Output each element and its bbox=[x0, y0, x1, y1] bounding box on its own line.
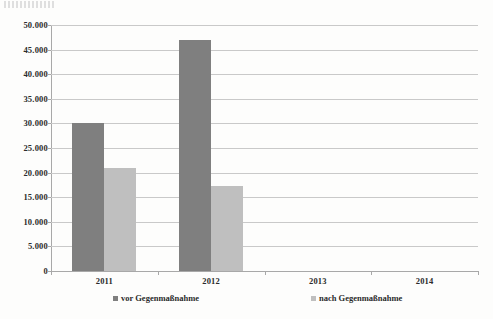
y-axis-tick-mark bbox=[47, 197, 51, 198]
y-axis-tick-label: 0 bbox=[4, 267, 48, 276]
gridline bbox=[51, 123, 478, 124]
bar-2012-series-0 bbox=[179, 40, 211, 271]
y-axis-tick-mark bbox=[47, 222, 51, 223]
y-axis-tick-mark bbox=[47, 74, 51, 75]
x-axis-label-2012: 2012 bbox=[181, 277, 241, 286]
x-axis-tick-mark bbox=[51, 271, 52, 275]
y-axis-tick-label: 40.000 bbox=[4, 70, 48, 79]
bar-chart: 05.00010.00015.00020.00025.00030.00035.0… bbox=[0, 0, 493, 319]
x-axis-label-2013: 2013 bbox=[288, 277, 348, 286]
y-axis-tick-label: 25.000 bbox=[4, 144, 48, 153]
x-axis-label-2014: 2014 bbox=[395, 277, 455, 286]
y-axis-tick-label: 50.000 bbox=[4, 21, 48, 30]
y-axis-tick-mark bbox=[47, 123, 51, 124]
legend-swatch-icon bbox=[311, 296, 316, 301]
y-axis-tick-mark bbox=[47, 99, 51, 100]
bar-2011-series-0 bbox=[72, 123, 104, 271]
y-axis-tick-label: 10.000 bbox=[4, 218, 48, 227]
gridline bbox=[51, 99, 478, 100]
chart-legend: vor Gegenmaßnahmenach Gegenmaßnahme bbox=[0, 294, 493, 310]
x-axis-tick-mark bbox=[371, 271, 372, 275]
plot-area bbox=[51, 25, 478, 271]
y-axis-tick-mark bbox=[47, 173, 51, 174]
x-axis-tick-mark bbox=[265, 271, 266, 275]
y-axis-tick-mark bbox=[47, 25, 51, 26]
legend-swatch-icon bbox=[113, 296, 118, 301]
y-axis-tick-label: 30.000 bbox=[4, 119, 48, 128]
x-axis-tick-mark bbox=[478, 271, 479, 275]
legend-label: nach Gegenmaßnahme bbox=[319, 294, 402, 303]
y-axis-labels: 05.00010.00015.00020.00025.00030.00035.0… bbox=[0, 25, 48, 271]
bar-2012-series-1 bbox=[211, 186, 243, 271]
gridline bbox=[51, 50, 478, 51]
y-axis-tick-mark bbox=[47, 246, 51, 247]
bar-2011-series-1 bbox=[104, 168, 136, 271]
legend-entry-0: vor Gegenmaßnahme bbox=[113, 294, 199, 303]
y-axis-tick-label: 35.000 bbox=[4, 95, 48, 104]
legend-label: vor Gegenmaßnahme bbox=[121, 294, 199, 303]
x-axis-tick-mark bbox=[158, 271, 159, 275]
y-axis-tick-mark bbox=[47, 271, 51, 272]
gridline bbox=[51, 74, 478, 75]
y-axis-tick-mark bbox=[47, 50, 51, 51]
gridline bbox=[51, 25, 478, 26]
y-axis-tick-mark bbox=[47, 148, 51, 149]
scan-artifact bbox=[4, 1, 56, 8]
y-axis-tick-label: 45.000 bbox=[4, 45, 48, 54]
y-axis-tick-label: 15.000 bbox=[4, 193, 48, 202]
y-axis-tick-label: 20.000 bbox=[4, 168, 48, 177]
gridline bbox=[51, 148, 478, 149]
y-axis-tick-label: 5.000 bbox=[4, 242, 48, 251]
x-axis-label-2011: 2011 bbox=[74, 277, 134, 286]
legend-entry-1: nach Gegenmaßnahme bbox=[311, 294, 402, 303]
